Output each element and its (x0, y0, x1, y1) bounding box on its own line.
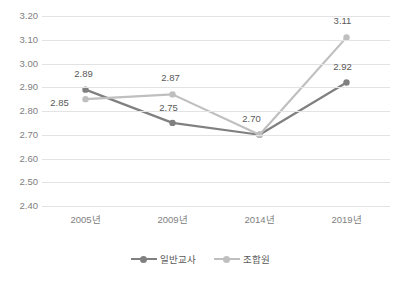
gridline (42, 206, 390, 207)
data-label: 3.11 (334, 16, 352, 26)
data-label: 2.89 (74, 69, 93, 79)
gridline (42, 40, 390, 41)
x-axis: 2005년2009년2014년2019년 (42, 210, 390, 226)
chart-title (0, 0, 400, 2)
y-tick-label: 3.00 (4, 59, 38, 69)
data-point-marker (343, 79, 349, 85)
legend-label: 일반교사 (160, 252, 196, 266)
series-line (86, 83, 347, 135)
y-tick-label: 3.20 (4, 11, 38, 21)
x-tick-label: 2005년 (70, 212, 100, 226)
line-chart: 3.203.103.002.902.802.702.602.502.40 2.8… (0, 0, 400, 285)
chart-legend: 일반교사조합원 (0, 252, 400, 266)
legend-item[interactable]: 조합원 (214, 252, 270, 266)
legend-item[interactable]: 일반교사 (131, 252, 196, 266)
x-tick-label: 2014년 (244, 212, 274, 226)
x-tick-label: 2009년 (157, 212, 187, 226)
y-tick-label: 2.90 (4, 82, 38, 92)
series-line (86, 37, 347, 134)
data-point-marker (169, 91, 175, 97)
y-tick-label: 2.80 (4, 106, 38, 116)
data-label: 2.70 (242, 114, 261, 124)
legend-label: 조합원 (243, 252, 270, 266)
data-point-marker (169, 120, 175, 126)
legend-marker-icon (140, 256, 147, 263)
y-tick-label: 2.40 (4, 201, 38, 211)
plot-area: 2.892.852.872.752.703.112.92 (42, 16, 390, 206)
data-label: 2.75 (159, 103, 178, 113)
y-tick-label: 3.10 (4, 35, 38, 45)
x-tick-label: 2019년 (331, 212, 361, 226)
gridline (42, 159, 390, 160)
y-tick-label: 2.60 (4, 154, 38, 164)
legend-swatch (214, 255, 240, 264)
gridline (42, 87, 390, 88)
y-tick-label: 2.50 (4, 177, 38, 187)
gridline (42, 135, 390, 136)
data-label: 2.87 (161, 73, 180, 83)
data-label: 2.85 (50, 98, 69, 108)
data-label: 2.92 (333, 62, 352, 72)
legend-swatch (131, 255, 157, 264)
y-tick-label: 2.70 (4, 130, 38, 140)
legend-marker-icon (223, 256, 230, 263)
gridline (42, 111, 390, 112)
data-point-marker (82, 96, 88, 102)
y-axis: 3.203.103.002.902.802.702.602.502.40 (0, 16, 38, 206)
gridline (42, 182, 390, 183)
